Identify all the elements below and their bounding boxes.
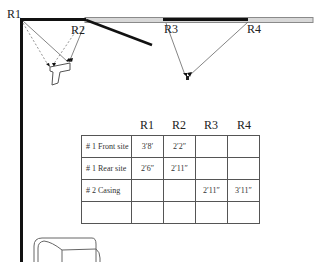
- column-header-r4: R4: [228, 118, 260, 133]
- table-cell: 3′8′: [132, 136, 164, 158]
- table-cell: 2′2″: [164, 136, 196, 158]
- table-cell: 2′6″: [132, 158, 164, 180]
- table-cell: 2′11″: [196, 180, 228, 202]
- table-cell: [228, 202, 260, 224]
- column-header-r3: R3: [195, 118, 227, 133]
- table-cell: [196, 158, 228, 180]
- table-cell: [196, 202, 228, 224]
- table-cell: [228, 158, 260, 180]
- table-row: # 1 Front site 3′8′ 2′2″: [82, 136, 260, 158]
- table-cell: [196, 136, 228, 158]
- measurement-table: # 1 Front site 3′8′ 2′2″ # 1 Rear site 2…: [81, 135, 260, 224]
- measurement-lines-casing: [166, 22, 248, 77]
- label-r3: R3: [164, 23, 178, 35]
- label-r2: R2: [71, 24, 85, 36]
- label-r1: R1: [7, 8, 21, 20]
- pistol-icon: [50, 63, 70, 85]
- column-header-r1: R1: [131, 118, 163, 133]
- table-cell: 3′11″: [228, 180, 260, 202]
- table-cell: [132, 202, 164, 224]
- armchair-icon: [34, 238, 100, 262]
- table-row: # 1 Rear site 2′6″ 2′11″: [82, 158, 260, 180]
- casing-icon: [186, 76, 189, 80]
- table-cell: [228, 136, 260, 158]
- label-r4: R4: [247, 23, 261, 35]
- table-row: [82, 202, 260, 224]
- column-header-r2: R2: [163, 118, 195, 133]
- table-cell: [164, 180, 196, 202]
- table-cell: 2′11″: [164, 158, 196, 180]
- row-label: # 1 Front site: [82, 136, 132, 158]
- table-cell: [164, 202, 196, 224]
- row-label: # 2 Casing: [82, 180, 132, 202]
- table-cell: [132, 180, 164, 202]
- table-row: # 2 Casing 2′11″ 3′11″: [82, 180, 260, 202]
- row-label: # 1 Rear site: [82, 158, 132, 180]
- door: [86, 20, 152, 45]
- row-label: [82, 202, 132, 224]
